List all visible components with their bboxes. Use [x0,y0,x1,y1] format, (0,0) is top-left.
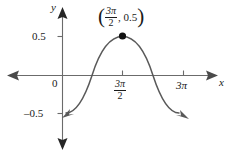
annotation-fraction-denominator: 2 [105,18,117,29]
curve-right-arrowhead [176,110,189,119]
fraction-denominator: 2 [114,91,126,102]
fraction-numerator: 3π [114,79,126,91]
x-tick-label-three-pi: 3π [176,80,187,91]
annotation-fraction-numerator: 3π [105,6,117,18]
annotation-open-paren: ( [98,7,105,26]
y-tick-label-positive: 0.5 [32,31,46,42]
y-axis-label: y [51,2,56,13]
annotation-y-value: , 0.5 [118,12,137,23]
graph-figure: y x 0 0.5 –0.5 3π 2 3π ( 3π 2 , 0.5 ) [0,0,232,152]
maximum-point-dot [119,32,126,39]
annotation-fraction: 3π 2 [105,6,117,28]
annotation-close-paren: ) [137,7,144,26]
origin-label: 0 [52,78,58,89]
fraction-three-pi-over-two: 3π 2 [114,79,126,101]
x-tick-label-three-pi-over-two: 3π 2 [114,79,126,101]
x-axis-label: x [219,77,224,88]
y-tick-label-negative: –0.5 [24,108,43,119]
maximum-point-annotation: ( 3π 2 , 0.5 ) [98,6,144,28]
